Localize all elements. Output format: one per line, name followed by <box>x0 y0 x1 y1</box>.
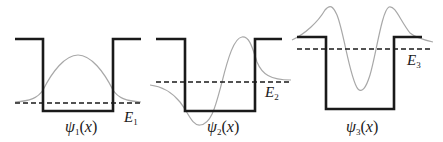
potential-well-3 <box>297 37 422 109</box>
energy-label-3: E3 <box>406 52 421 70</box>
quantum-well-diagram: E1 ψ1(x) E2 ψ2(x) E3 ψ3(x) <box>0 0 443 142</box>
energy-label-2: E2 <box>264 84 279 102</box>
panel-state-3: E3 ψ3(x) <box>292 7 433 137</box>
wavefunction-1-curve <box>15 55 141 102</box>
psi-label-2: ψ2(x) <box>207 118 239 137</box>
energy-label-1: E1 <box>123 109 138 127</box>
psi-label-3: ψ3(x) <box>346 118 378 137</box>
panel-state-1: E1 ψ1(x) <box>15 39 142 137</box>
potential-well-1 <box>15 39 141 111</box>
potential-well-2 <box>156 39 282 111</box>
psi-label-1: ψ1(x) <box>65 118 97 137</box>
panel-state-2: E2 ψ2(x) <box>150 37 291 137</box>
